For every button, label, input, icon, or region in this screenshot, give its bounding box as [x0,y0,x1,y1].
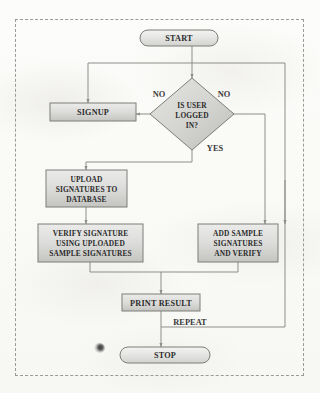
node-upload-label-line3: DATABASE [66,195,106,204]
node-decision-is-user-logged-in[interactable]: IS USER LOGGED IN? [150,78,234,150]
edge-merge-to-print [90,262,238,294]
edge-label-no-right: NO [218,90,231,99]
edge-label-no-left: NO [153,90,166,99]
node-start-label: START [165,34,193,43]
node-signup-label: SIGNUP [77,108,109,117]
node-decision-label-line3: IN? [186,121,199,130]
edge-decision-yes-to-upload [86,150,192,170]
edge-label-repeat: REPEAT [173,318,207,327]
flowchart-canvas: START IS USER LOGGED IN? SIGNUP UPLOAD S… [0,0,320,393]
node-verify-signature[interactable]: VERIFY SIGNATURE USING UPLOADED SAMPLE S… [38,224,143,262]
edge-label-yes: YES [207,144,224,153]
node-stop[interactable]: STOP [120,347,210,363]
node-print-label: PRINT RESULT [130,299,192,308]
node-addsample-label-line3: AND VERIFY [214,249,262,258]
node-decision-label-line2: LOGGED [175,111,208,120]
edge-decision-no-right-to-addsample [234,114,265,224]
node-verify-label-line2: USING UPLOADED [56,239,125,248]
node-addsample-label-line2: SIGNATURES [213,239,262,248]
node-upload-label-line2: SIGNATURES TO [56,185,118,194]
node-upload-label-line1: UPLOAD [70,175,102,184]
node-upload-signatures[interactable]: UPLOAD SIGNATURES TO DATABASE [46,170,127,207]
node-signup[interactable]: SIGNUP [50,103,136,121]
node-add-sample-signatures[interactable]: ADD SAMPLE SIGNATURES AND VERIFY [198,224,278,262]
node-stop-label: STOP [154,351,176,360]
node-print-result[interactable]: PRINT RESULT [122,294,200,311]
node-start[interactable]: START [140,30,218,46]
node-addsample-label-line1: ADD SAMPLE [213,229,263,238]
flowchart-page: START IS USER LOGGED IN? SIGNUP UPLOAD S… [0,0,320,393]
node-verify-label-line1: VERIFY SIGNATURE [53,229,129,238]
node-verify-label-line3: SAMPLE SIGNATURES [49,249,132,258]
node-decision-label-line1: IS USER [177,101,207,110]
